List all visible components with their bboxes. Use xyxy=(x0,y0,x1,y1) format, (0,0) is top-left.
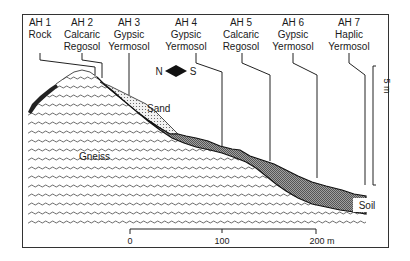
vertical-scale-bar xyxy=(373,66,376,185)
profile-ah7-soil1: Haplic xyxy=(335,29,363,40)
profile-ah1-id: AH 1 xyxy=(29,17,52,28)
profile-ah2-soil2: Regosol xyxy=(64,41,101,52)
cross-section-diagram: AH 1 Rock AH 2 Calcaric Regosol AH 3 Gyp… xyxy=(0,0,410,261)
gneiss-label: Gneiss xyxy=(79,151,110,162)
horizontal-scale-bar xyxy=(130,229,316,234)
profile-ah4-id: AH 4 xyxy=(175,17,198,28)
profile-ah3-soil2: Yermosol xyxy=(108,41,149,52)
south-label: S xyxy=(190,66,197,77)
scale-tick-0: 0 xyxy=(127,236,132,246)
profile-ah5-soil2: Regosol xyxy=(223,41,260,52)
profile-ah5-id: AH 5 xyxy=(230,17,253,28)
profile-ah4-soil1: Gypsic xyxy=(171,29,202,40)
profile-ah1-soil: Rock xyxy=(29,29,53,40)
profile-ah4-soil2: Yermosol xyxy=(165,41,206,52)
profile-ah2-id: AH 2 xyxy=(71,17,94,28)
leader-ah6 xyxy=(293,53,317,178)
north-label: N xyxy=(155,66,162,77)
leader-ah4 xyxy=(196,53,222,146)
profile-ah3-soil1: Gypsic xyxy=(114,29,145,40)
orientation-diamond-icon xyxy=(165,65,187,77)
profile-ah7-id: AH 7 xyxy=(338,17,361,28)
sand-label: Sand xyxy=(147,103,170,114)
vertical-scale-label: 5 m xyxy=(382,78,392,93)
profile-ah6-soil1: Gypsic xyxy=(278,29,309,40)
leader-ah5 xyxy=(242,53,270,161)
profile-ah5-soil1: Calcaric xyxy=(223,29,259,40)
profile-ah6-id: AH 6 xyxy=(282,17,305,28)
profile-ah2-soil1: Calcaric xyxy=(64,29,100,40)
profile-ah7-soil2: Yermosol xyxy=(328,41,369,52)
leader-ah7 xyxy=(349,53,365,185)
profile-ah3-id: AH 3 xyxy=(118,17,141,28)
scale-tick-200: 200 m xyxy=(309,236,334,246)
soil-label: Soil xyxy=(359,200,376,211)
profile-ah6-soil2: Yermosol xyxy=(272,41,313,52)
scale-tick-100: 100 xyxy=(214,236,229,246)
